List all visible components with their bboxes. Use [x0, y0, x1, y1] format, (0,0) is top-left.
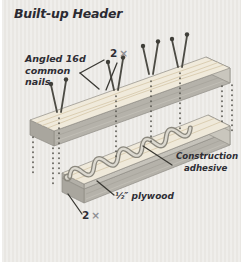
- nail-pair: [141, 39, 160, 74]
- nail-pair: [170, 32, 189, 67]
- label-angled-nails: Angled 16d common nails: [25, 53, 86, 88]
- label-2x-bottom: 2×: [82, 210, 100, 222]
- card-background: Built-up Header: [2, 0, 241, 262]
- label-2x-top: 2×: [110, 48, 128, 60]
- header-diagram: [2, 0, 241, 262]
- leader-2x-top: [106, 63, 117, 90]
- label-construction-adhesive: Construction adhesive: [176, 151, 238, 174]
- label-plywood: ½″ plywood: [115, 191, 174, 203]
- illustration-card: Built-up Header: [0, 0, 243, 272]
